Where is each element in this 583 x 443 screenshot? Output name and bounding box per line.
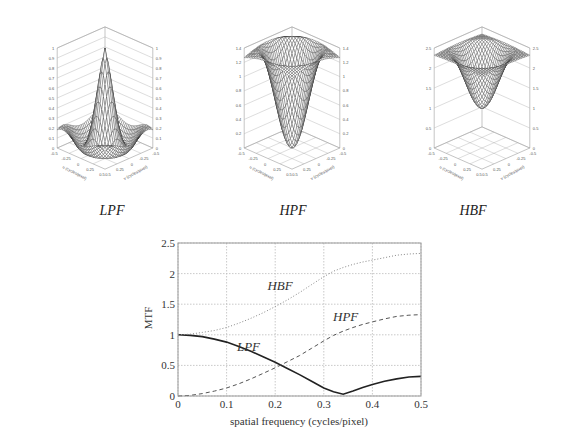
hpf-curve [178, 315, 421, 396]
y-axis-label: MTF [142, 307, 154, 330]
curve-annotations: HBFHPFLPF [236, 278, 359, 354]
y-tick-label: 1.5 [161, 298, 175, 310]
y-tick-label: 2 [170, 268, 176, 280]
y-tick-label: 2.5 [161, 237, 175, 249]
hbf-annotation: HBF [266, 278, 293, 293]
lpf-annotation: LPF [236, 339, 261, 354]
chart-axes: 00.10.20.30.40.500.511.522.5 [161, 237, 428, 410]
chart-curves [178, 253, 421, 396]
plot-frame [178, 243, 421, 396]
lpf-curve [178, 335, 421, 394]
x-tick-label: 0.1 [220, 398, 234, 410]
y-tick-label: 0 [170, 390, 176, 402]
x-tick-label: 0.2 [268, 398, 282, 410]
hbf-curve [178, 253, 421, 334]
hpf-annotation: HPF [332, 309, 359, 324]
x-tick-label: 0.4 [366, 398, 380, 410]
chart-grid [178, 243, 421, 396]
x-tick-label: 0.3 [317, 398, 331, 410]
y-tick-label: 0.5 [161, 359, 175, 371]
x-tick-label: 0 [175, 398, 181, 410]
y-tick-label: 1 [170, 329, 176, 341]
x-axis-label: spatial frequency (cycles/pixel) [230, 415, 368, 428]
x-tick-label: 0.5 [414, 398, 428, 410]
mtf-line-chart: 00.10.20.30.40.500.511.522.5 HBFHPFLPF s… [0, 0, 583, 443]
